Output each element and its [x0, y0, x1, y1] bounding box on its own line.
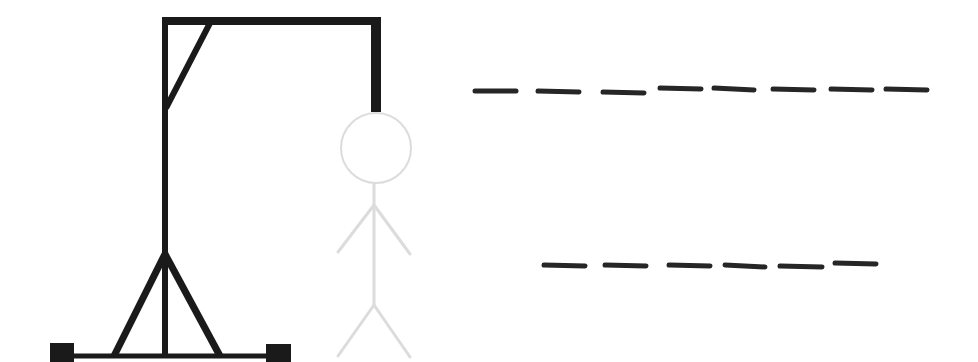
letter-slot: [660, 88, 701, 89]
letter-slot: [603, 92, 644, 93]
blank-dash: [660, 88, 701, 89]
gallows: [50, 17, 381, 362]
figure-left-leg: [338, 305, 374, 356]
letter-slot: [544, 265, 585, 266]
letter-slot: [725, 265, 765, 267]
hangman-figure: [338, 113, 411, 357]
letter-slot: [773, 89, 814, 90]
word-line-2: [544, 263, 876, 267]
letter-slot: [780, 266, 822, 267]
figure-head: [341, 113, 411, 183]
blank-dash: [605, 265, 646, 266]
blank-dash: [780, 266, 822, 267]
gallows-left-foot: [50, 343, 74, 362]
letter-slot: [605, 265, 646, 266]
blank-dash: [725, 265, 765, 267]
letter-slot: [669, 265, 710, 266]
letter-slot: [835, 263, 876, 264]
blank-dash: [603, 92, 644, 93]
letter-slot: [714, 88, 754, 90]
blank-dash: [669, 265, 710, 266]
gallows-right-foot: [266, 344, 291, 362]
blank-dash: [831, 89, 872, 90]
figure-left-arm: [338, 205, 374, 252]
gallows-left-leg-brace: [114, 254, 165, 356]
gallows-corner-brace: [166, 23, 210, 108]
blank-dash: [886, 89, 927, 90]
blank-dash: [773, 89, 814, 90]
blank-dash: [835, 263, 876, 264]
blank-dash: [538, 91, 579, 92]
word-line-1: [475, 88, 927, 93]
letter-slot: [538, 91, 579, 92]
blank-dash: [544, 265, 585, 266]
hangman-board: [0, 0, 978, 362]
letter-slot: [831, 89, 872, 90]
blank-dash: [714, 88, 754, 90]
letter-slot: [886, 89, 927, 90]
gallows-right-leg-brace: [165, 254, 220, 356]
figure-right-arm: [374, 205, 410, 254]
figure-right-leg: [374, 305, 410, 357]
